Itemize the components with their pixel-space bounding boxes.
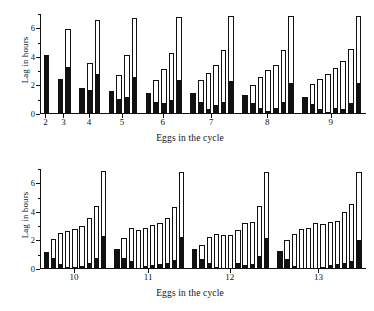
bar-segment-filled (87, 90, 93, 114)
bar-segment-filled (228, 81, 234, 114)
bar (206, 73, 212, 114)
bar-segment-filled (242, 95, 248, 114)
bar-segment-filled (116, 99, 122, 114)
bar (292, 234, 297, 269)
x-tick-label: 8 (265, 118, 270, 127)
y-tick-label: 4 (31, 208, 35, 217)
bar-segment-filled (136, 268, 141, 269)
y-tick-label: 6 (31, 24, 35, 33)
bar (284, 240, 289, 269)
bar (121, 238, 126, 269)
x-tick-label: 3 (61, 118, 66, 127)
bar (150, 225, 155, 269)
bar (313, 223, 318, 269)
x-tick-label: 2 (43, 118, 48, 127)
bar (198, 80, 204, 114)
y-axis-label-top: Lag in hours (20, 37, 30, 84)
bar (348, 49, 354, 114)
x-tick-label: 12 (225, 273, 234, 282)
bar-segment-open (342, 212, 347, 269)
bar (349, 204, 354, 269)
bar (265, 70, 271, 114)
bar (87, 218, 92, 269)
bar (124, 55, 130, 114)
bar-segment-filled (306, 268, 311, 269)
y-axis-label-wrap-bottom: Lag in hours (4, 163, 18, 267)
bar-segment-filled (335, 264, 340, 269)
bar (179, 172, 184, 269)
bar-segment-filled (95, 74, 101, 114)
bar-segment-filled (214, 267, 219, 269)
bar-segment-filled (198, 102, 204, 114)
bar (228, 16, 234, 114)
bar-segment-open (335, 221, 340, 269)
bar-segment-open (79, 226, 84, 269)
y-tick-minor (38, 169, 41, 170)
bar (161, 69, 167, 114)
bar-segment-open (292, 234, 297, 269)
bar (79, 88, 85, 114)
bar-segment-filled (87, 263, 92, 269)
y-tick-major (36, 114, 40, 115)
bar (44, 55, 50, 114)
bar (114, 249, 119, 269)
bar (146, 93, 152, 114)
bar (342, 212, 347, 269)
bar-segment-open (313, 223, 318, 269)
y-tick-major (36, 57, 40, 58)
y-tick-minor (38, 14, 41, 15)
bar (317, 79, 323, 114)
bar-segment-filled (277, 251, 282, 269)
bar-segment-filled (79, 266, 84, 269)
bar (221, 235, 226, 269)
bar-segment-filled (124, 97, 130, 114)
bar-segment-filled (157, 264, 162, 269)
y-tick-label: 4 (31, 53, 35, 62)
bar-segment-filled (109, 91, 115, 114)
bar-segment-open (65, 231, 70, 269)
bar-segment-filled (235, 263, 240, 269)
bar (214, 234, 219, 269)
bar (242, 223, 247, 269)
bar (288, 16, 294, 114)
bar-segment-filled (114, 249, 119, 269)
y-tick-major (36, 212, 40, 213)
bar (207, 237, 212, 269)
bar (109, 91, 115, 114)
bar-segment-filled (207, 263, 212, 269)
y-tick-minor (38, 71, 41, 72)
bar (302, 97, 308, 114)
bar-segment-filled (65, 267, 70, 269)
bar (277, 251, 282, 269)
bar (221, 50, 227, 114)
bar-segment-filled (221, 102, 227, 114)
y-tick-major (36, 269, 40, 270)
bar-segment-filled (58, 79, 64, 114)
bar (192, 249, 197, 269)
bar (65, 29, 71, 114)
bar-segment-filled (94, 258, 99, 269)
chart-panel-top: Lag in hours 0246 23456789 Eggs in the c… (0, 0, 374, 155)
bar-segment-filled (356, 240, 361, 269)
bar-segment-filled (192, 249, 197, 269)
x-tick-label: 10 (69, 273, 78, 282)
bar (169, 53, 175, 114)
bar-segment-filled (273, 108, 279, 114)
figure-stacked-bar-charts: Lag in hours 0246 23456789 Eggs in the c… (0, 0, 374, 311)
bar-segment-open (325, 74, 331, 114)
bar (153, 80, 159, 114)
bar (116, 75, 122, 114)
bar-segment-filled (165, 263, 170, 269)
bar (58, 79, 64, 114)
bar (87, 63, 93, 114)
bar (58, 233, 63, 269)
y-tick-minor (38, 255, 41, 256)
bar (325, 74, 331, 114)
bar (129, 228, 134, 269)
bar (101, 171, 106, 269)
bar-segment-open (242, 223, 247, 269)
x-tick-label: 4 (87, 118, 92, 127)
bar-segment-filled (129, 261, 134, 269)
bar (335, 221, 340, 269)
bar-segment-filled (333, 108, 339, 114)
